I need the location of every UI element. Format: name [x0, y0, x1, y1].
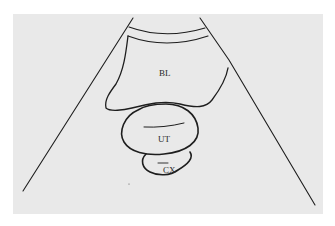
- sector-left-edge: [23, 18, 133, 191]
- sector-right-edge: [200, 18, 315, 205]
- label-bladder: BL: [159, 68, 171, 78]
- label-uterus: UT: [158, 134, 170, 144]
- uterus-outline: [122, 104, 199, 155]
- near-field-band-outer: [129, 27, 205, 34]
- ultrasound-diagram: BL UT CX: [0, 0, 335, 226]
- label-cervix: CX: [163, 165, 176, 175]
- uterus-endometrium-line: [144, 123, 184, 127]
- near-field-band-inner: [128, 36, 208, 43]
- artifact-dot: [128, 183, 129, 184]
